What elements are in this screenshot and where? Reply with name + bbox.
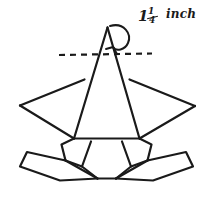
right-brim-wing: [130, 80, 196, 139]
hat-pattern-drawing: [0, 0, 210, 197]
cone-triangle: [74, 28, 140, 139]
lower-right-panel: [116, 139, 152, 179]
dashed-seam-line: [59, 54, 152, 56]
curved-arrow-icon: [106, 25, 129, 54]
measurement-unit-label: inch: [166, 8, 196, 20]
lower-left-panel: [62, 139, 98, 179]
measurement-fraction: 1 4: [147, 8, 161, 26]
left-brim-wing: [20, 80, 85, 139]
fraction-denominator: 4: [149, 16, 155, 25]
sketch-page: 1 1 4 inch: [0, 0, 210, 197]
